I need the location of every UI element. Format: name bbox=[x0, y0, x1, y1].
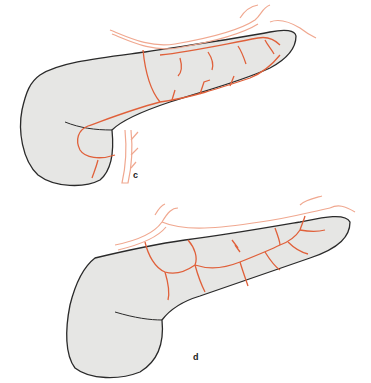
organ-outline-d bbox=[67, 217, 350, 378]
organ-outline-c bbox=[21, 30, 296, 185]
panel-c-pancreas bbox=[21, 5, 316, 185]
pancreas-diagram bbox=[0, 0, 371, 383]
panel-label-c: c bbox=[133, 170, 138, 180]
panel-d-pancreas bbox=[67, 196, 355, 378]
panel-label-d: d bbox=[193, 352, 199, 362]
